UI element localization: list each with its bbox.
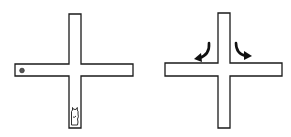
right-cross-outline [165,13,282,128]
rat-icon [71,108,78,126]
right-maze [165,13,282,128]
plus-maze-diagram [0,0,291,137]
right-turn-arrow-icon [236,43,252,60]
left-turn-arrow-icon [194,43,209,62]
start-marker-dot [20,68,25,73]
left-maze [15,14,133,128]
